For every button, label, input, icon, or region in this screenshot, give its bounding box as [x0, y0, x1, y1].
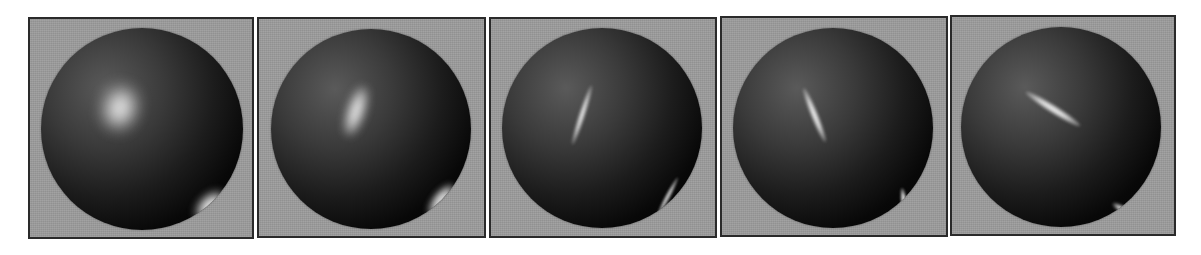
- specular-highlight-secondary-streak: [655, 176, 680, 217]
- sphere-image: [502, 28, 702, 228]
- sphere-panel-5: [950, 15, 1176, 236]
- sphere-panel-4: [720, 16, 948, 237]
- specular-highlight-primary-streak: [570, 85, 595, 146]
- specular-highlight-primary-arc: [1024, 89, 1083, 130]
- specular-highlight-primary-soft: [98, 82, 142, 133]
- sphere-panel-2: [257, 17, 486, 238]
- sphere-image: [41, 28, 243, 230]
- specular-highlight-secondary-streak: [899, 188, 909, 217]
- sphere-image: [961, 27, 1161, 227]
- specular-highlight-secondary: [423, 180, 459, 220]
- specular-highlight-secondary: [1111, 201, 1137, 221]
- specular-highlight-secondary: [189, 185, 230, 226]
- sphere-panel-3: [489, 17, 717, 238]
- sphere-image: [271, 29, 471, 229]
- specular-highlight-primary-elongated: [339, 83, 372, 138]
- specular-highlight-primary-streak: [800, 87, 828, 143]
- sphere-panel-1: [28, 17, 254, 239]
- sphere-image: [733, 28, 933, 228]
